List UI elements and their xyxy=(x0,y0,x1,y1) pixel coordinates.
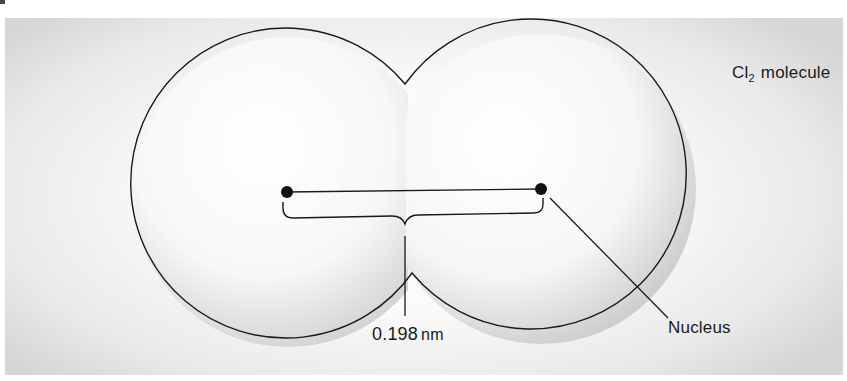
nucleus-label: Nucleus xyxy=(668,318,731,338)
element-subscript: 2 xyxy=(748,72,754,84)
bond-length-value: 0.198 xyxy=(372,324,418,344)
molecule-title: Cl2molecule xyxy=(732,63,830,84)
bond-length-label: 0.198nm xyxy=(372,324,444,345)
title-suffix: molecule xyxy=(761,63,831,82)
bond-length-unit: nm xyxy=(421,326,444,343)
nucleus-left-dot xyxy=(281,186,293,198)
nucleus-right-dot xyxy=(535,183,547,195)
element-symbol: Cl xyxy=(732,63,748,82)
